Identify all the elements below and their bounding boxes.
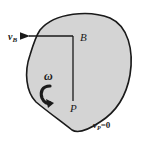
label-velocity-p: vP=0: [93, 120, 111, 131]
label-omega: ω: [44, 69, 53, 83]
label-p: P: [69, 102, 77, 114]
rigid-body-shape: [27, 14, 132, 132]
label-b: B: [80, 31, 87, 43]
diagram-canvas: B P ω vB vP=0: [0, 0, 144, 143]
label-velocity-b: vB: [8, 31, 17, 44]
